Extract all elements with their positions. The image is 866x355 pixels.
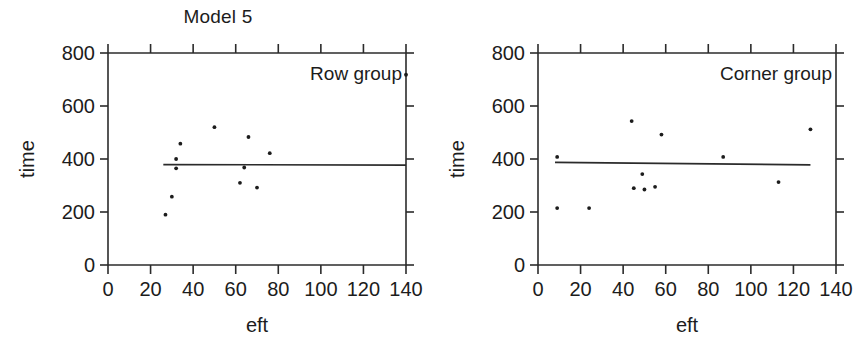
data-point: [174, 157, 178, 161]
y-axis-title: time: [446, 140, 468, 178]
y-tick-label: 600: [492, 95, 525, 117]
data-point: [640, 172, 644, 176]
data-point-group: [164, 73, 408, 217]
plot-area-corner-group: 0200400600800020406080100120140efttimeCo…: [430, 0, 866, 355]
x-tick-label: 20: [569, 278, 591, 300]
data-point: [555, 206, 559, 210]
x-tick-label: 60: [655, 278, 677, 300]
x-tick-label: 100: [734, 278, 767, 300]
regression-line: [163, 165, 406, 166]
axis-frame: [108, 53, 406, 265]
axis-frame: [538, 53, 836, 265]
data-point: [404, 73, 408, 77]
y-tick-label: 800: [62, 42, 95, 64]
data-point: [587, 206, 591, 210]
data-point: [178, 142, 182, 146]
data-point: [643, 188, 647, 192]
data-point: [242, 166, 246, 170]
x-tick-label: 100: [304, 278, 337, 300]
x-tick-label: 40: [612, 278, 634, 300]
y-tick-label: 0: [514, 254, 525, 276]
panel-label-corner-group: Corner group: [720, 63, 832, 84]
x-tick-label: 120: [347, 278, 380, 300]
plot-area-row-group: 0200400600800020406080100120140efttimeRo…: [0, 0, 436, 355]
data-point: [660, 133, 664, 137]
data-point: [721, 155, 725, 159]
x-tick-label: 0: [532, 278, 543, 300]
y-tick-label: 400: [492, 148, 525, 170]
x-axis-title: eft: [676, 314, 699, 336]
data-point: [555, 155, 559, 159]
data-point: [174, 166, 178, 170]
data-point: [247, 135, 251, 139]
x-tick-label: 0: [102, 278, 113, 300]
panel-label-row-group: Row group: [310, 63, 402, 84]
y-axis-title: time: [16, 140, 38, 178]
regression-line: [555, 162, 810, 164]
x-axis-title: eft: [246, 314, 269, 336]
x-tick-label: 120: [777, 278, 810, 300]
x-tick-label: 80: [697, 278, 719, 300]
data-point: [238, 181, 242, 185]
data-point: [653, 185, 657, 189]
y-tick-label: 0: [84, 254, 95, 276]
panel-corner-group: 0200400600800020406080100120140efttimeCo…: [430, 0, 866, 355]
data-point: [630, 119, 634, 123]
x-tick-label: 40: [182, 278, 204, 300]
data-point: [632, 186, 636, 190]
y-tick-label: 400: [62, 148, 95, 170]
data-point: [255, 186, 259, 190]
data-point: [268, 151, 272, 155]
x-tick-label: 140: [389, 278, 422, 300]
y-tick-label: 200: [62, 201, 95, 223]
x-tick-label: 80: [267, 278, 289, 300]
y-tick-label: 600: [62, 95, 95, 117]
x-tick-label: 140: [819, 278, 852, 300]
x-tick-label: 60: [225, 278, 247, 300]
data-point: [170, 195, 174, 199]
panel-row-group: Model 5 0200400600800020406080100120140e…: [0, 0, 436, 355]
data-point: [777, 180, 781, 184]
y-tick-label: 200: [492, 201, 525, 223]
x-tick-label: 20: [139, 278, 161, 300]
data-point: [164, 213, 168, 217]
data-point: [213, 125, 217, 129]
figure-canvas: Model 5 0200400600800020406080100120140e…: [0, 0, 866, 355]
data-point: [809, 127, 813, 131]
y-tick-label: 800: [492, 42, 525, 64]
